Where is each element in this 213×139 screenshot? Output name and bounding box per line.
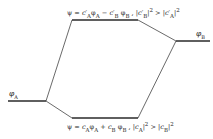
bonding-equation: ψ = cAφA + cB φB , |cA|2 > |cB|2: [67, 122, 174, 133]
mo-diagram-lines: [0, 0, 213, 139]
connector-a-to-antibonding: [46, 20, 72, 101]
connector-a-to-bonding: [46, 101, 72, 118]
antibonding-equation: ψ = c′AφA − c′B φB , |c′B|2 > |c′A|2: [67, 8, 180, 19]
connector-b-to-antibonding: [138, 20, 176, 41]
connector-b-to-bonding: [138, 41, 176, 118]
phi-b-label: φB: [196, 30, 205, 40]
phi-a-label: φA: [9, 90, 18, 100]
